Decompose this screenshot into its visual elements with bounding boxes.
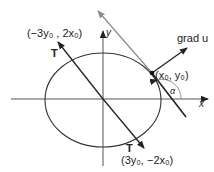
lower-t-vector-label: (3y₀, −2x₀): [121, 154, 173, 166]
alpha-label: α: [170, 86, 176, 96]
upper-t-label: T: [51, 47, 58, 59]
point-x0-y0: [150, 71, 155, 76]
t-arrow-upper: [58, 42, 103, 99]
t-arrow-lower: [103, 99, 144, 148]
upper-t-vector-label: (−3y₀ , 2x₀): [27, 27, 82, 39]
lower-t-label: T: [126, 142, 133, 154]
x-axis-label: x: [198, 98, 205, 109]
grad-u-label: grad u: [177, 32, 208, 44]
ellipse-gradient-diagram: (−3y₀ , 2x₀) T T (3y₀, −2x₀) (x₀, y₀) gr…: [0, 0, 214, 172]
y-axis-label: y: [105, 27, 112, 38]
tangent-line-gray: [98, 11, 152, 73]
point-label: (x₀, y₀): [155, 69, 189, 81]
